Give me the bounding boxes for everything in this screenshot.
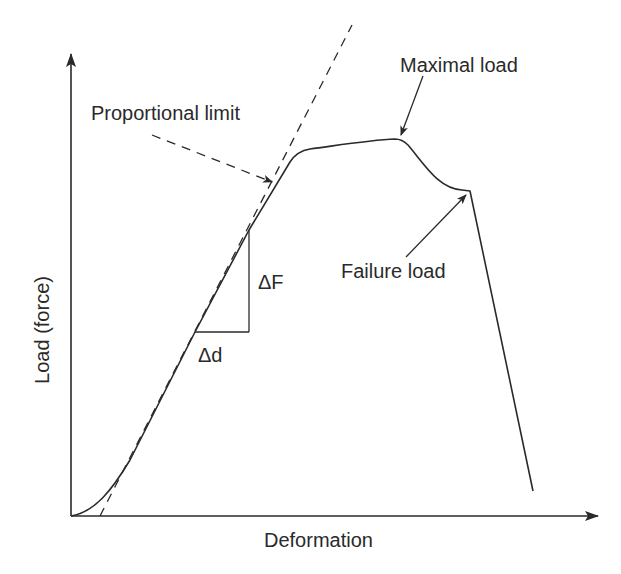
- delta-d-label: Δd: [198, 344, 222, 366]
- proportional-limit-arrow: [152, 135, 272, 182]
- maximal-load-arrow: [401, 76, 423, 135]
- failure-load-arrow: [406, 195, 466, 257]
- plot-area: [0, 0, 621, 574]
- y-axis-label: Load (force): [31, 274, 53, 386]
- delta-f-label: ΔF: [258, 271, 284, 293]
- proportional-limit-label: Proportional limit: [91, 102, 240, 124]
- elastic-extension-dashed-line: [100, 25, 352, 516]
- maximal-load-label: Maximal load: [400, 54, 518, 76]
- load-deformation-curve: [71, 139, 533, 516]
- x-axis-label: Deformation: [264, 529, 373, 551]
- failure-load-label: Failure load: [341, 260, 446, 282]
- load-deformation-diagram: Proportional limit Maximal load Failure …: [0, 0, 621, 574]
